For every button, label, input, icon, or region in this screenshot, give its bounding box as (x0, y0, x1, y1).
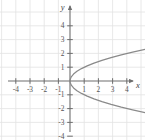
x-tick-label: 1 (82, 85, 86, 94)
x-tick-label: 3 (111, 85, 115, 94)
x-tick-label: -3 (27, 85, 33, 94)
y-tick-label: 3 (61, 35, 65, 44)
y-axis-label: y (60, 2, 65, 12)
x-tick-label: -2 (41, 85, 47, 94)
x-tick-label: -4 (13, 85, 19, 94)
x-tick-label: 4 (125, 85, 129, 94)
chart-background (0, 0, 145, 140)
parabola-graph-figure: -4 -3 -2 -1 1 2 3 4 4 3 2 1 -1 -2 -3 -4 … (0, 0, 145, 140)
x-axis-label: x (135, 80, 140, 90)
y-tick-label: -2 (58, 104, 64, 113)
y-tick-label: 4 (61, 21, 65, 30)
y-tick-label: -4 (58, 132, 64, 140)
x-tick-label: 2 (97, 85, 101, 94)
y-tick-label: -1 (58, 90, 64, 99)
y-tick-label: 1 (61, 63, 65, 72)
y-tick-label: -3 (58, 118, 64, 127)
y-tick-label: 2 (61, 49, 65, 58)
graph-canvas: -4 -3 -2 -1 1 2 3 4 4 3 2 1 -1 -2 -3 -4 … (0, 0, 145, 140)
